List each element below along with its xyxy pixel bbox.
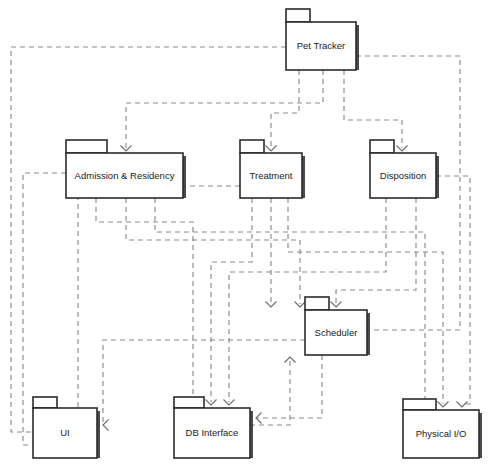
package-layer: Pet TrackerAdmission & ResidencyTreatmen… bbox=[33, 9, 482, 458]
package-tab bbox=[305, 297, 329, 310]
dependency-pet-tracker-to-disposition bbox=[344, 70, 408, 151]
package-ui[interactable]: UI bbox=[33, 397, 100, 458]
package-tab bbox=[403, 399, 436, 410]
package-label: Scheduler bbox=[315, 327, 358, 338]
dependency-line bbox=[256, 355, 322, 418]
package-tab bbox=[286, 9, 310, 22]
dependency-arrowhead bbox=[457, 402, 468, 408]
package-label: Admission & Residency bbox=[75, 170, 175, 181]
dependency-db-interface-to-scheduler bbox=[250, 357, 296, 425]
dependency-layer bbox=[11, 47, 470, 451]
dependency-arrowhead bbox=[103, 420, 109, 431]
dependency-admission-residency-to-db-interface bbox=[96, 198, 199, 405]
package-admission-residency[interactable]: Admission & Residency bbox=[66, 140, 186, 198]
package-db-interface[interactable]: DB Interface bbox=[174, 397, 253, 458]
dependency-pet-tracker-to-admission-residency bbox=[121, 70, 324, 151]
dependency-line bbox=[126, 70, 323, 148]
dependency-line bbox=[336, 198, 416, 304]
dependency-arrowhead bbox=[266, 302, 277, 308]
package-label: DB Interface bbox=[186, 427, 239, 438]
dependency-line bbox=[344, 70, 402, 148]
dependency-line bbox=[211, 198, 252, 402]
dependency-treatment-to-db-interface bbox=[206, 198, 253, 405]
dependency-line bbox=[96, 198, 193, 402]
package-tab bbox=[33, 397, 57, 408]
dependency-line bbox=[126, 198, 300, 304]
package-label: UI bbox=[60, 427, 70, 438]
package-pet-tracker[interactable]: Pet Tracker bbox=[286, 9, 359, 70]
package-tab bbox=[240, 140, 264, 153]
dependency-treatment-to-ui bbox=[60, 186, 240, 446]
dependency-line bbox=[271, 70, 299, 148]
dependency-pet-tracker-to-ui bbox=[11, 47, 286, 438]
package-label: Physical I/O bbox=[416, 428, 467, 439]
dependency-arrowhead bbox=[438, 402, 449, 408]
dependency-line bbox=[250, 360, 290, 425]
dependency-treatment-to-scheduler bbox=[266, 198, 277, 307]
dependency-arrowhead bbox=[266, 146, 277, 152]
package-tab bbox=[174, 397, 204, 408]
dependency-pet-tracker-to-treatment bbox=[266, 70, 300, 151]
dependency-disposition-to-physical-io bbox=[436, 176, 470, 407]
package-physical-io[interactable]: Physical I/O bbox=[403, 399, 482, 458]
dependency-admission-residency-to-physical-io bbox=[155, 198, 431, 407]
dependency-line bbox=[436, 176, 470, 404]
dependency-line bbox=[60, 186, 240, 440]
package-tab bbox=[370, 140, 394, 153]
diagram-canvas: Pet TrackerAdmission & ResidencyTreatmen… bbox=[0, 0, 490, 472]
dependency-arrowhead bbox=[295, 302, 306, 308]
dependency-admission-residency-to-scheduler bbox=[126, 198, 306, 307]
package-tab bbox=[66, 140, 107, 153]
package-label: Disposition bbox=[380, 170, 426, 181]
package-label: Pet Tracker bbox=[297, 40, 346, 51]
dependency-arrowhead bbox=[224, 400, 235, 406]
uml-package-diagram: Pet TrackerAdmission & ResidencyTreatmen… bbox=[0, 0, 490, 472]
dependency-scheduler-to-db-interface bbox=[256, 355, 322, 424]
package-label: Treatment bbox=[250, 170, 293, 181]
dependency-arrowhead bbox=[397, 146, 408, 152]
